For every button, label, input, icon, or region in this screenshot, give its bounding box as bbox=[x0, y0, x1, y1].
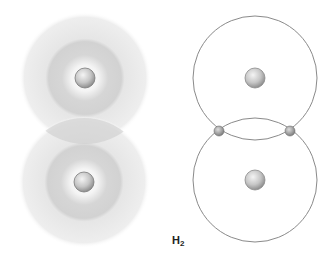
orbit-model bbox=[193, 16, 317, 242]
molecule-label: H2 bbox=[172, 234, 184, 250]
nucleus-left-lower bbox=[74, 172, 94, 192]
shared-electron-left bbox=[214, 126, 224, 136]
shared-electron-right bbox=[285, 126, 295, 136]
electron-cloud-model bbox=[18, 12, 151, 248]
label-subscript: 2 bbox=[180, 239, 184, 248]
h2-diagram bbox=[0, 0, 335, 262]
nucleus-left-upper bbox=[75, 68, 95, 88]
label-element: H bbox=[172, 234, 180, 246]
nucleus-right-upper bbox=[245, 68, 265, 88]
nucleus-right-lower bbox=[245, 170, 265, 190]
